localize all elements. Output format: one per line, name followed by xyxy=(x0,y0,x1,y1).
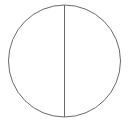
figure-canvas xyxy=(0,0,128,124)
circle-diagram-svg xyxy=(0,0,128,124)
